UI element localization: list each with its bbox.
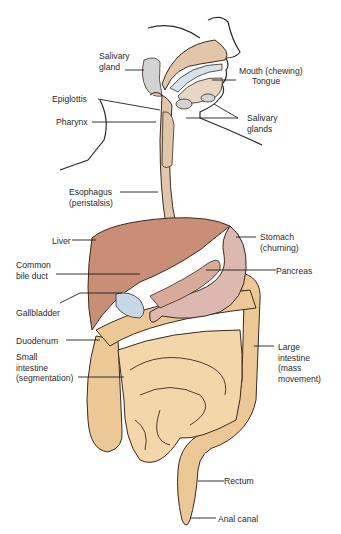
label-stomach: Stomach (churning) xyxy=(260,232,299,253)
label-salivary-gland: Salivary gland xyxy=(99,51,130,72)
gallbladder xyxy=(116,293,144,318)
label-esophagus: Esophagus (peristalsis) xyxy=(69,187,113,208)
label-duodenum: Duodenum xyxy=(16,336,58,347)
parotid-gland xyxy=(142,58,162,96)
label-pancreas: Pancreas xyxy=(276,266,312,277)
label-tongue: Tongue xyxy=(252,76,280,87)
label-small-intestine: Small intestine (segmentation) xyxy=(16,352,73,384)
trachea xyxy=(162,112,174,168)
label-pharynx: Pharynx xyxy=(56,117,88,128)
label-anal-canal: Anal canal xyxy=(218,514,258,525)
submandibular-gland xyxy=(201,94,215,102)
label-mouth: Mouth (chewing) xyxy=(239,66,303,77)
label-common-bile-duct: Common bile duct xyxy=(16,260,51,281)
label-liver: Liver xyxy=(52,236,71,247)
label-large-intestine: Large intestine (mass movement) xyxy=(278,342,321,384)
label-salivary-glands: Salivary glands xyxy=(247,113,278,134)
label-gallbladder: Gallbladder xyxy=(16,308,60,319)
label-rectum: Rectum xyxy=(224,476,254,487)
sublingual-gland xyxy=(176,99,192,109)
label-epiglottis: Epiglottis xyxy=(52,94,87,105)
